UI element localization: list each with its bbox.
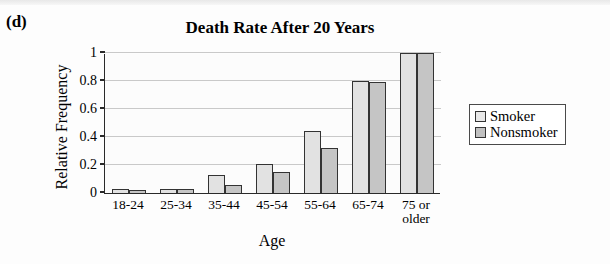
bar-smoker: [304, 131, 321, 193]
bar-group: [345, 53, 393, 193]
bar-group: [297, 53, 345, 193]
bar-group: [249, 53, 297, 193]
legend-item-smoker: Smoker: [475, 108, 558, 124]
bar-group: [153, 53, 201, 193]
x-axis-tick-label: 75 or older: [392, 198, 440, 226]
x-axis-label: Age: [104, 232, 440, 250]
figure-panel: (d) Death Rate After 20 Years Relative F…: [0, 0, 610, 264]
y-axis-tick-label: 0.4: [80, 129, 98, 145]
bar-nonsmoker: [225, 185, 242, 193]
bar-smoker: [256, 164, 273, 193]
bar-smoker: [160, 189, 177, 193]
bar-nonsmoker: [321, 148, 338, 193]
chart-title: Death Rate After 20 Years: [120, 18, 440, 38]
bar-nonsmoker: [369, 82, 386, 193]
x-axis-tick-label: 35-44: [200, 198, 248, 226]
bar-group: [393, 53, 441, 193]
bar-nonsmoker: [129, 190, 146, 193]
bar-group: [105, 53, 153, 193]
bar-smoker: [400, 53, 417, 193]
x-axis-tick-label: 25-34: [152, 198, 200, 226]
legend-swatch-icon: [475, 127, 486, 138]
bar-nonsmoker: [273, 172, 290, 193]
bar-groups: [105, 53, 441, 193]
plot-area: 00.20.40.60.81: [104, 54, 440, 194]
bar-group: [201, 53, 249, 193]
bar-smoker: [112, 189, 129, 193]
x-axis-tick-labels: 18-2425-3435-4445-5455-6465-7475 or olde…: [104, 198, 440, 226]
bar-nonsmoker: [177, 189, 194, 193]
x-axis-tick-label: 18-24: [104, 198, 152, 226]
panel-letter: (d): [6, 12, 27, 32]
x-axis-tick-label: 65-74: [344, 198, 392, 226]
y-axis-tick-label: 1: [90, 45, 97, 61]
legend-item-label: Nonsmoker: [490, 124, 558, 140]
y-axis-label: Relative Frequency: [53, 47, 71, 207]
y-axis-tick-label: 0.6: [80, 101, 98, 117]
legend-item-label: Smoker: [490, 108, 535, 124]
bar-smoker: [352, 81, 369, 193]
legend-item-nonsmoker: Nonsmoker: [475, 124, 558, 140]
scan-artifact-band: [0, 0, 610, 5]
x-axis-tick-label: 45-54: [248, 198, 296, 226]
bar-nonsmoker: [417, 53, 434, 193]
legend-swatch-icon: [475, 111, 486, 122]
y-axis-tick-label: 0.8: [80, 73, 98, 89]
chart-legend: SmokerNonsmoker: [469, 104, 566, 145]
bar-smoker: [208, 175, 225, 193]
y-axis-tick-label: 0: [90, 185, 97, 201]
y-axis-tick-label: 0.2: [80, 157, 98, 173]
x-axis-tick-label: 55-64: [296, 198, 344, 226]
